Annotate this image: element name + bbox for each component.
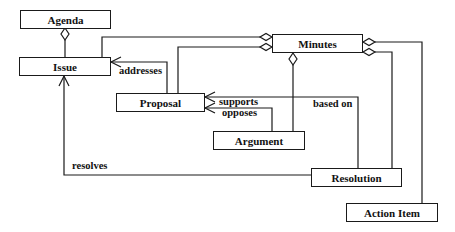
- class-agenda-name: Agenda: [47, 14, 83, 26]
- class-issue: Issue: [19, 57, 111, 76]
- label-addresses: addresses: [119, 65, 162, 76]
- class-minutes: Minutes: [272, 34, 363, 53]
- class-argument-name: Argument: [235, 135, 283, 147]
- class-resolution-name: Resolution: [331, 172, 381, 184]
- class-minutes-name: Minutes: [298, 38, 337, 50]
- class-issue-name: Issue: [53, 61, 77, 73]
- class-action-item-name: Action Item: [364, 207, 420, 219]
- label-based-on: based on: [313, 98, 352, 109]
- class-proposal: Proposal: [116, 93, 205, 112]
- class-action-item: Action Item: [346, 203, 438, 222]
- label-resolves: resolves: [72, 160, 107, 171]
- label-supports: supports: [219, 96, 258, 107]
- class-argument: Argument: [213, 131, 305, 150]
- class-resolution: Resolution: [311, 168, 402, 187]
- class-agenda: Agenda: [20, 10, 111, 29]
- aggregation-diamond-agenda: [61, 28, 69, 40]
- label-opposes: opposes: [222, 107, 257, 118]
- class-proposal-name: Proposal: [140, 97, 181, 109]
